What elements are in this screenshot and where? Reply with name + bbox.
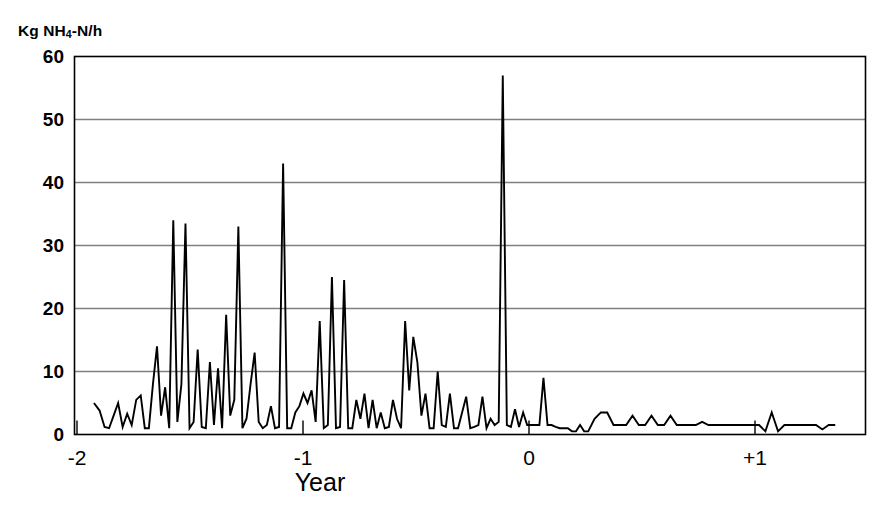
data-series-line — [94, 75, 835, 431]
x-tick-label: 0 — [499, 447, 559, 468]
x-tick-label: -2 — [47, 447, 107, 468]
y-tick-label: 60 — [8, 47, 64, 66]
x-tick-label: -1 — [273, 447, 333, 468]
y-tick-label: 10 — [8, 362, 64, 381]
x-axis-title: Year — [0, 470, 640, 495]
x-tick-marks — [77, 421, 755, 435]
chart-figure: Kg NH4-N/h 0102030405060 -2-10+1 Year — [0, 0, 891, 527]
y-tick-label: 50 — [8, 110, 64, 129]
y-tick-label: 0 — [8, 425, 64, 444]
y-tick-label: 20 — [8, 299, 64, 318]
y-tick-label: 40 — [8, 173, 64, 192]
x-tick-label: +1 — [725, 447, 785, 468]
y-tick-label: 30 — [8, 236, 64, 255]
gridlines — [75, 120, 866, 372]
